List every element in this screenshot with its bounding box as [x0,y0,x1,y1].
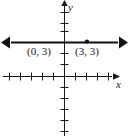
y-axis-arrowhead-icon [61,0,68,6]
point-marker-3-3 [85,39,89,43]
label-axis-y: y [68,1,73,13]
label-point-3-3: (3, 3) [75,45,99,57]
line-right-arrowhead-icon [119,37,128,49]
graph-canvas [0,0,129,139]
coordinate-graph: (0, 3) (3, 3) x y [0,0,129,139]
label-point-0-3: (0, 3) [27,45,51,57]
line-left-arrowhead-icon [1,37,10,49]
label-axis-x: x [116,78,121,90]
x-axis-group [3,73,120,81]
y-axis-group [61,0,69,136]
